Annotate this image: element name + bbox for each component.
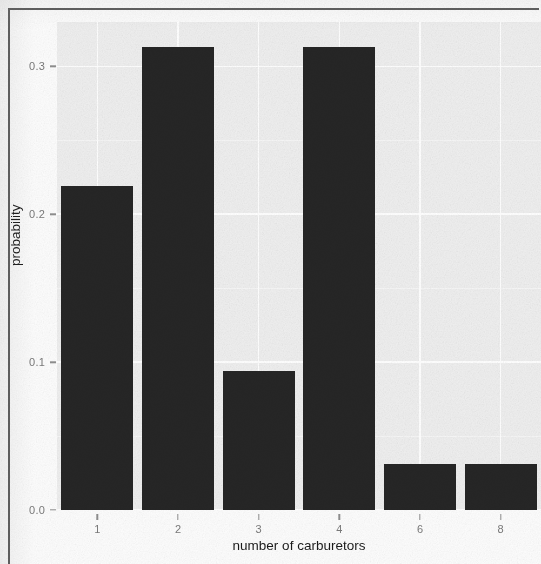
x-tick-mark xyxy=(419,514,420,520)
y-tick-mark xyxy=(50,509,56,510)
x-tick-mark xyxy=(97,514,98,520)
bar-4 xyxy=(303,47,375,510)
x-tick-label-1: 1 xyxy=(94,523,100,535)
y-tick-mark xyxy=(50,361,56,362)
gridline-x-major xyxy=(419,22,421,510)
x-axis-title: number of carburetors xyxy=(57,538,541,553)
x-tick-label-8: 8 xyxy=(498,523,504,535)
y-tick-label-0.0: 0.0 xyxy=(0,504,45,516)
figure-canvas: 0.00.10.20.3 123468 number of carburetor… xyxy=(0,0,541,564)
bar-8 xyxy=(465,464,537,510)
y-tick-mark xyxy=(50,214,56,215)
gridline-y-minor xyxy=(57,140,541,141)
gridline-y-major xyxy=(57,66,541,68)
x-tick-mark xyxy=(258,514,259,520)
y-axis-title: probability xyxy=(8,204,23,266)
x-tick-label-2: 2 xyxy=(175,523,181,535)
x-tick-label-6: 6 xyxy=(417,523,423,535)
y-tick-mark xyxy=(50,66,56,67)
bar-1 xyxy=(61,186,133,510)
bar-2 xyxy=(142,47,214,510)
y-tick-label-0.1: 0.1 xyxy=(0,356,45,368)
x-tick-label-3: 3 xyxy=(256,523,262,535)
x-tick-label-4: 4 xyxy=(336,523,342,535)
x-tick-mark xyxy=(177,514,178,520)
plot-panel xyxy=(57,22,541,510)
bar-3 xyxy=(223,371,295,510)
bar-6 xyxy=(384,464,456,510)
gridline-x-major xyxy=(500,22,502,510)
y-tick-label-0.3: 0.3 xyxy=(0,60,45,72)
x-tick-mark xyxy=(500,514,501,520)
x-tick-mark xyxy=(339,514,340,520)
